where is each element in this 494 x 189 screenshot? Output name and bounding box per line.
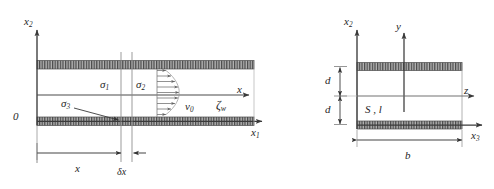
- y-axis-label: y: [396, 21, 401, 32]
- left-longitudinal-section: [37, 30, 262, 163]
- d-lower-label: d: [325, 104, 331, 115]
- section-label: S , l: [365, 104, 382, 115]
- d-dimension-upper: [334, 67, 347, 97]
- sigma1-label: σ1: [100, 79, 109, 90]
- x-dimension-line: [37, 143, 121, 163]
- x-axis-label: x: [237, 84, 242, 95]
- x2-axis-label-right: x2: [344, 16, 353, 27]
- sigma2-label: σ2: [136, 79, 145, 90]
- b-dimension: [357, 130, 462, 147]
- b-dimension-label: b: [405, 150, 411, 161]
- diagram-vector-canvas: [0, 0, 494, 189]
- x-dimension-label: x: [75, 163, 80, 174]
- zeta-w-label: ζw: [216, 99, 226, 111]
- x3-axis-label: x3: [471, 130, 480, 141]
- engineering-diagram: x2 0 x x1 σ1 σ2 σ3 v0 ζw x δx x2 y z x3 …: [0, 0, 494, 189]
- x1-axis-label: x1: [251, 127, 260, 138]
- right-cross-section: [334, 30, 482, 147]
- d-dimension-lower: [334, 96, 347, 125]
- upper-wall-band: [37, 61, 254, 70]
- origin-label-left: 0: [13, 111, 19, 122]
- x2-axis-label-left: x2: [24, 16, 33, 27]
- v0-label: v0: [185, 101, 194, 112]
- d-upper-label: d: [325, 75, 331, 86]
- sigma3-label: σ3: [61, 98, 70, 109]
- deltax-dimension-label: δx: [117, 167, 126, 177]
- upper-wall-band-right: [357, 63, 462, 71]
- z-axis-label: z: [464, 85, 468, 96]
- velocity-profile: [157, 69, 179, 117]
